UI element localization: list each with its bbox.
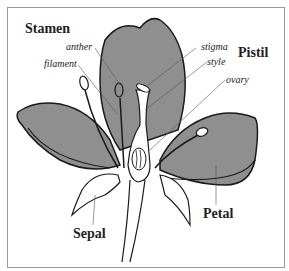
anther-center [115, 83, 123, 97]
ovary-shape [132, 148, 146, 170]
label-filament: filament [44, 59, 77, 69]
label-stigma: stigma [201, 42, 228, 52]
label-petal: Petal [203, 207, 233, 221]
label-pistil: Pistil [238, 46, 268, 60]
label-ovary: ovary [226, 75, 249, 85]
stem [122, 180, 145, 262]
sepal-left [72, 174, 120, 215]
sepal-right [160, 175, 190, 225]
label-sepal: Sepal [73, 227, 106, 241]
label-stamen: Stamen [25, 22, 70, 36]
label-anther: anther [66, 42, 92, 52]
flower-illustration [0, 0, 289, 271]
label-style: style [207, 57, 225, 67]
